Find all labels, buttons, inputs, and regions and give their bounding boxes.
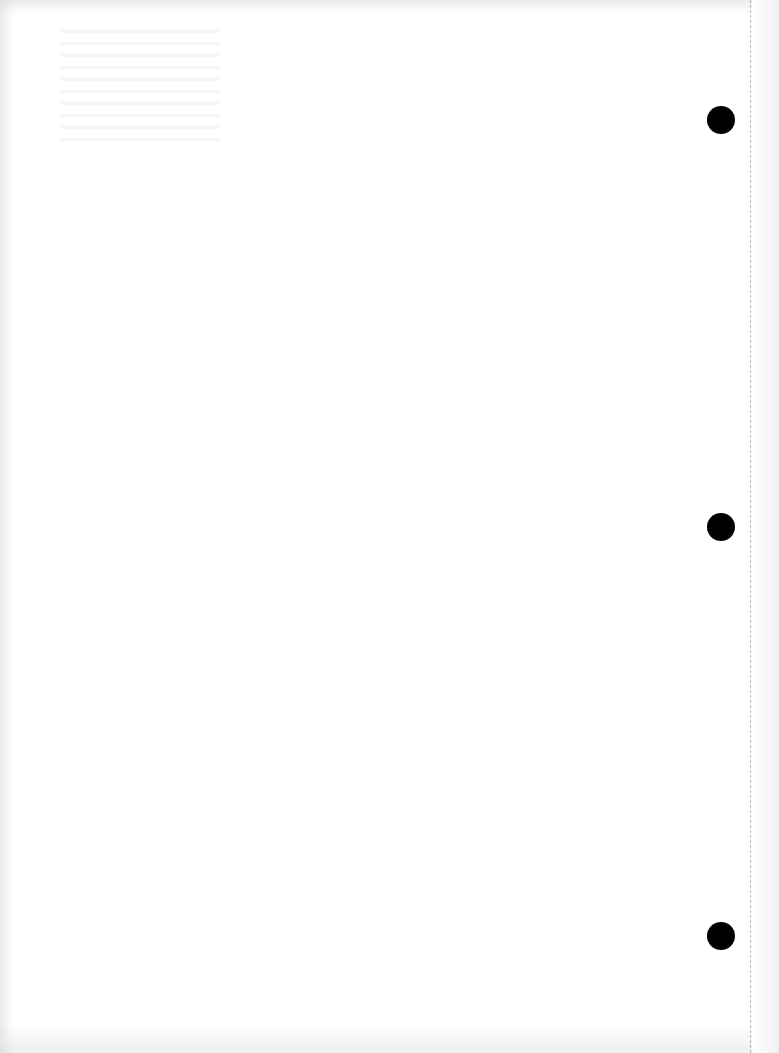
punch-hole-icon [707,513,735,541]
faint-bleed-through [60,30,220,150]
perforation-line [750,0,751,1053]
scanned-page [0,0,779,1053]
punch-hole-icon [707,922,735,950]
page-edge-strip [752,0,779,1053]
punch-hole-icon [707,106,735,134]
